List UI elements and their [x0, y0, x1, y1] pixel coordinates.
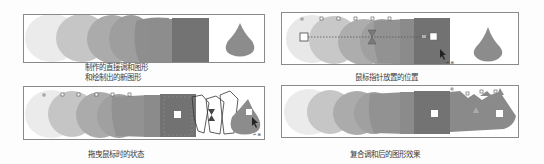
panel-dragging-state: ↵ ⊞ — [23, 86, 265, 140]
drop-shape — [474, 27, 503, 62]
caption-line-1: 复合调和后的图形效果 — [350, 150, 420, 160]
caption-compound-blend-result: 复合调和后的图形效果 — [350, 150, 420, 160]
start-node[interactable] — [300, 33, 308, 41]
cursor-label: ↵ ⊞ — [446, 60, 454, 64]
blend-illustration: ↵ ⊞ — [24, 87, 264, 139]
panel-blend-created — [23, 14, 265, 63]
panel-compound-blend-result — [281, 85, 519, 138]
drop-shape — [226, 23, 255, 57]
blend-node[interactable] — [431, 110, 438, 117]
caption-line-2: 和绘制出的新图形 — [85, 73, 148, 83]
caption-dragging-state: 拖曳鼠标时的状态 — [88, 150, 144, 160]
blend-illustration: ↵ ⊞ — [282, 13, 518, 64]
blend-illustration — [282, 86, 518, 137]
caption-pointer-position: 鼠标指针放置的位置 — [355, 73, 418, 83]
end-node[interactable] — [496, 110, 503, 117]
compound-drop-blend — [450, 91, 516, 132]
caption-line-1: 制作的直接调和图形 — [85, 63, 148, 73]
caption-line-1: 拖曳鼠标时的状态 — [88, 150, 144, 160]
panel-pointer-position: ↵ ⊞ — [281, 12, 519, 65]
end-node[interactable] — [430, 33, 437, 40]
hourglass-icon — [208, 109, 215, 121]
caption-line-1: 鼠标指针放置的位置 — [355, 73, 418, 83]
drag-preview-outlines — [192, 91, 238, 134]
blend-illustration — [24, 15, 264, 62]
caption-blend-created: 制作的直接调和图形 和绘制出的新图形 — [85, 63, 148, 83]
drop-shape — [231, 99, 261, 135]
cursor-label: ↵ ⊞ — [253, 132, 261, 137]
